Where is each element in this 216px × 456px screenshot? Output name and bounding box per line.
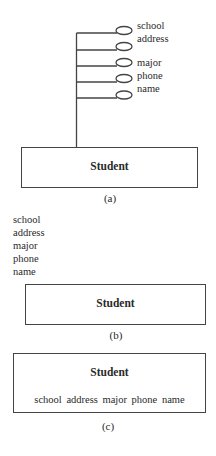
entity-name: Student [22, 160, 197, 172]
attribute-label-name: name [137, 82, 160, 95]
entity-name: Student [26, 297, 205, 309]
attribute-label-address: address [13, 226, 45, 239]
attribute-label-phone: phone [137, 69, 163, 82]
attribute-list: school address major phone name [13, 213, 45, 278]
attribute-label-school: school [137, 19, 164, 32]
caption-b: (b) [101, 329, 131, 341]
entity-box-student-b: Student [25, 284, 206, 325]
caption-a: (a) [95, 192, 125, 204]
attribute-label-name: name [13, 265, 45, 278]
attribute-label-major: major [137, 56, 162, 69]
caption-c: (c) [93, 420, 123, 432]
entity-box-student-a: Student [21, 147, 198, 188]
entity-name: Student [14, 366, 205, 378]
entity-box-student-c: Student school address major phone name [13, 353, 206, 413]
attribute-label-phone: phone [13, 252, 45, 265]
attribute-label-school: school [13, 213, 45, 226]
attribute-inline-list: school address major phone name [14, 394, 205, 405]
attribute-label-major: major [13, 239, 45, 252]
attribute-label-address: address [137, 32, 169, 45]
